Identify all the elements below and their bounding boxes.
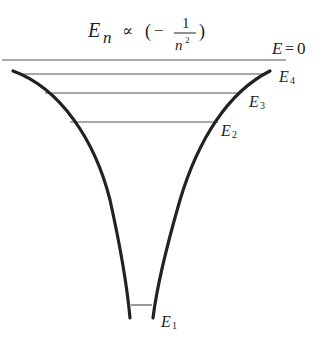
zero-label-equals: = bbox=[285, 40, 294, 57]
level-label-index: 4 bbox=[290, 75, 295, 86]
formula-close-paren: ) bbox=[199, 21, 205, 42]
level-label-symbol: E bbox=[160, 313, 171, 330]
level-label-symbol: E bbox=[220, 122, 231, 139]
zero-label-value: 0 bbox=[297, 39, 306, 58]
formula-subscript: n bbox=[103, 28, 112, 47]
level-label-e2: E 2 bbox=[220, 122, 237, 140]
formula-symbol: E bbox=[87, 19, 100, 41]
energy-formula: E n ∝ ( − 1 n 2 ) bbox=[87, 15, 205, 53]
level-label-symbol: E bbox=[248, 93, 259, 110]
level-label-index: 2 bbox=[232, 129, 237, 140]
formula-denominator-exponent: 2 bbox=[185, 35, 190, 45]
formula-proportional: ∝ bbox=[122, 22, 133, 39]
level-label-e3: E 3 bbox=[248, 93, 265, 111]
level-label-e4: E 4 bbox=[278, 68, 295, 86]
formula-open-paren: ( bbox=[145, 21, 151, 42]
potential-curve-left bbox=[13, 71, 130, 318]
formula-minus: − bbox=[154, 21, 164, 40]
zero-energy-label: E = 0 bbox=[271, 39, 306, 58]
level-label-symbol: E bbox=[278, 68, 289, 85]
level-label-e1: E 1 bbox=[160, 313, 177, 331]
zero-label-symbol: E bbox=[271, 39, 283, 58]
level-label-index: 3 bbox=[260, 100, 265, 111]
energy-level-diagram: E n ∝ ( − 1 n 2 ) E = 0 E 4 E 3 E 2 E 1 bbox=[0, 0, 325, 348]
level-label-index: 1 bbox=[172, 320, 177, 331]
formula-denominator-base: n bbox=[175, 37, 183, 53]
formula-numerator: 1 bbox=[182, 15, 190, 31]
